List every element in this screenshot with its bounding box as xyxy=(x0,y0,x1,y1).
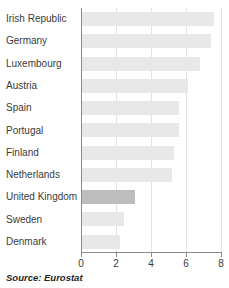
bar-row xyxy=(81,164,221,186)
bar xyxy=(81,235,120,249)
category-label: Irish Republic xyxy=(6,13,80,25)
bar xyxy=(81,79,188,93)
bar xyxy=(81,146,174,160)
x-axis-tick-label: 4 xyxy=(139,258,163,270)
x-axis-tick-mark xyxy=(221,253,222,257)
source-note: Source: Eurostat xyxy=(6,272,83,284)
bar-row xyxy=(81,119,221,141)
x-axis-tick-label: 6 xyxy=(174,258,198,270)
x-axis-tick-mark xyxy=(151,253,152,257)
bar-row xyxy=(81,30,221,52)
category-label: Denmark xyxy=(6,236,80,248)
bar-row xyxy=(81,231,221,253)
bar-row xyxy=(81,186,221,208)
category-label: Sweden xyxy=(6,214,80,226)
category-label: Spain xyxy=(6,102,80,114)
x-axis-tick-label: 2 xyxy=(104,258,128,270)
x-axis-tick-label: 0 xyxy=(69,258,93,270)
bar-row xyxy=(81,142,221,164)
category-label: United Kingdom xyxy=(6,191,80,203)
bar xyxy=(81,12,214,26)
category-label: Netherlands xyxy=(6,169,80,181)
bar xyxy=(81,212,124,226)
bar xyxy=(81,123,179,137)
plot-area xyxy=(81,8,221,253)
bar-row xyxy=(81,8,221,30)
bar xyxy=(81,34,211,48)
gridline xyxy=(221,8,222,253)
category-label: Germany xyxy=(6,35,80,47)
bar-row xyxy=(81,208,221,230)
bar-row xyxy=(81,53,221,75)
category-label: Luxembourg xyxy=(6,58,80,70)
category-label: Finland xyxy=(6,147,80,159)
chart-figure: Source: Eurostat 02468Irish RepublicGerm… xyxy=(0,0,229,288)
bar-row xyxy=(81,97,221,119)
x-axis-tick-mark xyxy=(186,253,187,257)
bar xyxy=(81,168,172,182)
x-axis-tick-mark xyxy=(116,253,117,257)
x-axis-tick-label: 8 xyxy=(209,258,229,270)
category-label: Austria xyxy=(6,80,80,92)
bar xyxy=(81,190,135,204)
x-axis-tick-mark xyxy=(81,253,82,257)
bar-row xyxy=(81,75,221,97)
bar xyxy=(81,101,179,115)
category-label: Portugal xyxy=(6,125,80,137)
y-axis-line xyxy=(81,8,82,253)
bar xyxy=(81,57,200,71)
